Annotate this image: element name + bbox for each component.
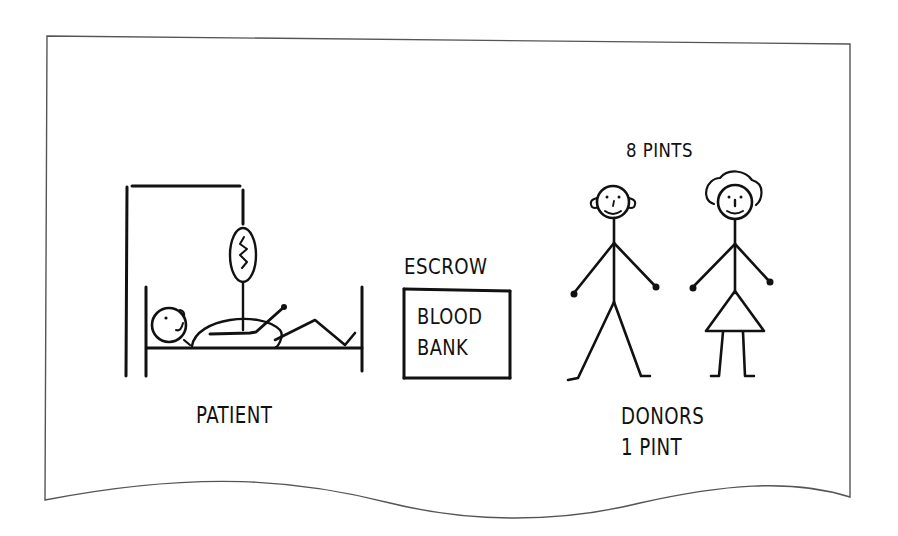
- patient-label: PATIENT: [196, 404, 272, 427]
- blood-bank-label-line2: BANK: [417, 337, 468, 359]
- donors-label: DONORS: [621, 405, 704, 428]
- escrow-label: ESCROW: [404, 256, 488, 278]
- blood-bank-label-line1: BLOOD: [417, 306, 482, 328]
- one-pint-label: 1 PINT: [621, 436, 682, 459]
- eight-pints-label: 8 PINTS: [626, 140, 693, 160]
